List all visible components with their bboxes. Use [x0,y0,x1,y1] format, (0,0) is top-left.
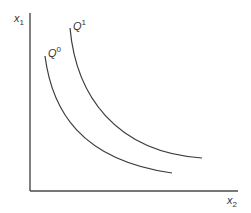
isoquant-diagram: x1 x2 Q0 Q1 [0,0,251,213]
isoquant-curve-q1 [70,28,202,158]
isoquant-label-q0: Q0 [48,45,62,59]
isoquant-label-q1: Q1 [73,18,87,32]
x-axis-label: x2 [226,194,238,209]
isoquant-curve-q0 [45,56,172,173]
y-axis-label: x1 [13,12,25,27]
